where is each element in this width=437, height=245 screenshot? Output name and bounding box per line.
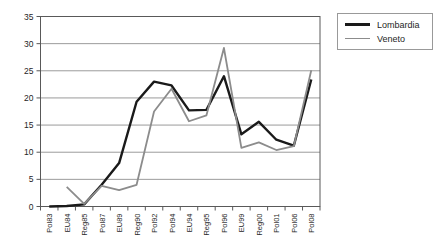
svg-text:Pol83: Pol83	[45, 214, 54, 233]
legend-label-lombardia: Lombardia	[377, 20, 420, 30]
svg-text:Reg00: Reg00	[255, 214, 264, 236]
svg-text:EU89: EU89	[115, 214, 124, 233]
chart-figure: 05101520253035Pol83EU84Reg85Pol87EU89Reg…	[0, 0, 437, 245]
lombardia-line-swatch	[345, 23, 370, 25]
svg-text:EU94: EU94	[185, 214, 194, 233]
svg-text:Pol96: Pol96	[220, 214, 229, 233]
svg-text:EU84: EU84	[63, 214, 72, 233]
veneto-line-swatch	[345, 38, 370, 40]
series-lines	[49, 48, 311, 207]
series-line-lombardia	[49, 76, 311, 206]
legend: Lombardia Veneto	[337, 13, 433, 50]
svg-text:Reg90: Reg90	[133, 214, 142, 236]
svg-text:20: 20	[24, 93, 34, 103]
y-axis-labels: 05101520253035	[24, 12, 34, 212]
axis-ticks	[37, 17, 321, 211]
svg-text:EU99: EU99	[237, 214, 246, 233]
series-line-veneto	[67, 48, 312, 204]
svg-text:15: 15	[24, 120, 34, 130]
svg-text:25: 25	[24, 66, 34, 76]
svg-text:Pol08: Pol08	[307, 214, 316, 233]
axes	[41, 17, 321, 207]
legend-label-veneto: Veneto	[377, 34, 405, 44]
x-axis-labels: Pol83EU84Reg85Pol87EU89Reg90Pol92Pol94EU…	[45, 214, 316, 236]
svg-text:Pol92: Pol92	[150, 214, 159, 233]
legend-item-veneto: Veneto	[345, 34, 432, 44]
svg-text:0: 0	[29, 202, 34, 212]
svg-text:Pol01: Pol01	[272, 214, 281, 233]
svg-text:Pol94: Pol94	[168, 214, 177, 233]
gridlines	[41, 44, 321, 180]
svg-text:5: 5	[29, 174, 34, 184]
svg-text:35: 35	[24, 12, 34, 22]
svg-text:Pol87: Pol87	[98, 214, 107, 233]
svg-text:30: 30	[24, 39, 34, 49]
svg-text:Reg95: Reg95	[202, 214, 211, 236]
svg-text:Reg85: Reg85	[80, 214, 89, 236]
svg-text:10: 10	[24, 147, 34, 157]
svg-text:Pol06: Pol06	[290, 214, 299, 233]
legend-item-lombardia: Lombardia	[345, 20, 432, 30]
